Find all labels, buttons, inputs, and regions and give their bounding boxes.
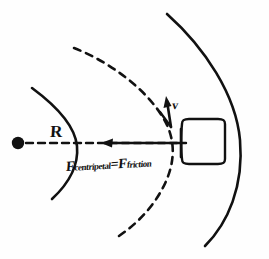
diagram-vector-layer bbox=[0, 0, 269, 259]
force-equation-equals-f2: =F bbox=[110, 156, 128, 172]
radius-label: R bbox=[49, 122, 63, 142]
physics-diagram-canvas: R v Fcentripetal=Ffriction bbox=[0, 0, 269, 259]
force-equation-subscript-friction: friction bbox=[126, 158, 151, 169]
force-equation-subscript-centripetal: centripetal bbox=[74, 161, 111, 173]
outer-road-edge-arc bbox=[167, 14, 241, 246]
car-box bbox=[181, 119, 225, 164]
center-point-dot bbox=[12, 137, 24, 149]
